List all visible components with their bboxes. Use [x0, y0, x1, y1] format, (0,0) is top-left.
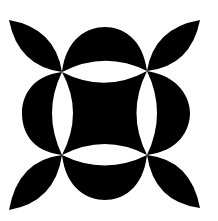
quilt-motif-figure: Black-and-white geometric quilt-block mo… [0, 0, 218, 221]
quilt-motif-graphic [0, 0, 218, 221]
center-concave-square [62, 71, 147, 155]
